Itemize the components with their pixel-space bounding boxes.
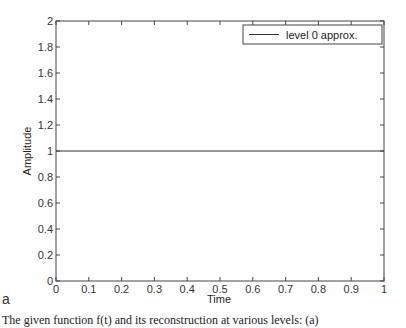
y-tick-label: 1.4 [38, 93, 53, 105]
y-tick-label: 1.8 [38, 41, 53, 53]
y-tick-label: 0.6 [38, 197, 53, 209]
y-axis-label: Amplitude [21, 127, 33, 176]
y-tick-label: 1.6 [38, 67, 53, 79]
y-tick-label: 0.8 [38, 171, 53, 183]
y-tick-label: 2 [47, 15, 53, 27]
figure-caption: The given function f(t) and its reconstr… [2, 313, 319, 328]
x-tick-label: 0.7 [278, 283, 293, 295]
x-tick-label: 0.2 [114, 283, 129, 295]
x-tick-label: 0 [53, 283, 59, 295]
x-tick-label: 0.6 [245, 283, 260, 295]
legend-label: level 0 approx. [286, 29, 358, 41]
x-tick-label: 0.1 [81, 283, 96, 295]
x-tick-label: 0.8 [311, 283, 326, 295]
x-axis-ticks: 00.10.20.30.40.50.60.70.80.91 [53, 21, 387, 295]
y-tick-label: 0.2 [38, 249, 53, 261]
x-tick-label: 0.9 [344, 283, 359, 295]
legend: level 0 approx. [243, 25, 382, 44]
x-axis-label: Time [207, 293, 231, 305]
x-tick-label: 0.3 [147, 283, 162, 295]
panel-label: a [2, 291, 10, 307]
y-tick-label: 1.2 [38, 119, 53, 131]
x-tick-label: 0.4 [180, 283, 195, 295]
x-tick-label: 1 [381, 283, 387, 295]
y-tick-label: 0.4 [38, 223, 53, 235]
y-tick-label: 1 [47, 145, 53, 157]
